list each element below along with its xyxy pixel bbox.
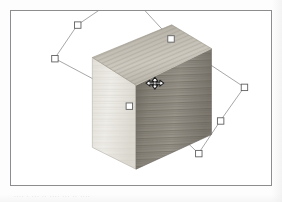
scan-edge-shading-right: [272, 0, 282, 202]
viewport-frame[interactable]: [10, 10, 272, 186]
scanned-page: .... . ... .. .... ... .. ....: [0, 0, 282, 202]
scan-bottom-text-fragment: .... . ... .. .... ... .. ....: [14, 190, 214, 199]
viewport-canvas[interactable]: [11, 11, 271, 185]
handle-top-left[interactable]: [75, 22, 81, 28]
handle-left[interactable]: [52, 55, 58, 61]
wooden-box-object[interactable]: [92, 25, 211, 169]
handle-bottom-right[interactable]: [217, 118, 223, 124]
handle-bottom[interactable]: [196, 150, 202, 156]
handle-top-right[interactable]: [168, 36, 174, 42]
handle-right[interactable]: [241, 84, 247, 90]
handle-center[interactable]: [126, 103, 132, 109]
